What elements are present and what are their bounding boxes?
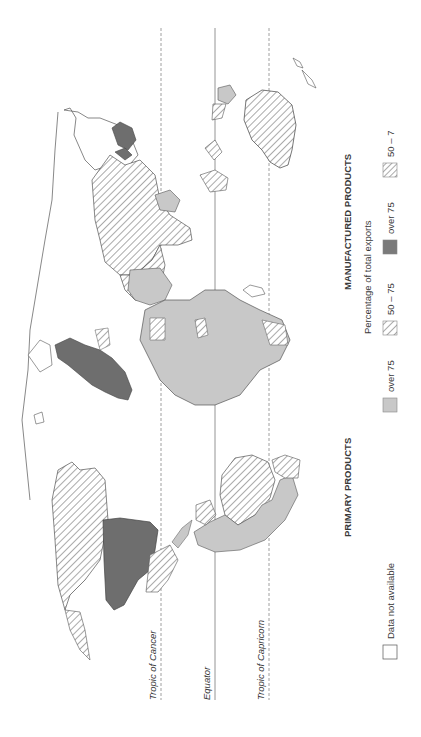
legend-label-manufactured-over-75: over 75: [385, 202, 396, 234]
world-map-figure: Tropic of Cancer Equator Tropic of Capri…: [0, 0, 421, 737]
legend-swatch-primary-50-75: [383, 321, 397, 335]
tropic-of-capricorn-label: Tropic of Capricorn: [255, 620, 266, 700]
region-nz-south: [302, 70, 316, 88]
legend-swatch-manufactured-50-75: [383, 163, 397, 177]
region-papua-hatched: [212, 104, 226, 120]
legend-label-manufactured-50-75: 50 – 7: [385, 131, 396, 157]
region-iceland: [34, 412, 44, 424]
legend-label-no-data: Data not available: [385, 563, 396, 639]
region-east-europe-hatch: [95, 328, 110, 350]
equator-label: Equator: [201, 666, 212, 700]
region-scandinavia: [28, 340, 52, 372]
legend-label-primary-over-75: over 75: [385, 360, 396, 392]
region-new-zealand: [293, 58, 303, 68]
region-argentina: [272, 455, 300, 478]
region-ussr: [92, 155, 192, 275]
map-svg: Tropic of Cancer Equator Tropic of Capri…: [0, 0, 421, 737]
legend-swatch-primary-over-75: [383, 398, 397, 412]
region-alaska: [65, 610, 90, 660]
region-indonesia: [200, 170, 228, 192]
legend-heading-manufactured: MANUFACTURED PRODUCTS: [342, 154, 353, 290]
region-africa: [140, 290, 290, 405]
legend-label-primary-50-75: 50 – 75: [385, 283, 396, 315]
region-africa-hatch-2: [150, 318, 165, 340]
legend-swatch-manufactured-over-75: [383, 240, 397, 254]
legend-swatch-no-data: [383, 645, 397, 659]
region-canada: [52, 462, 108, 610]
tropic-of-cancer-label: Tropic of Cancer: [147, 630, 158, 700]
region-philippines: [205, 140, 222, 160]
region-central-america: [172, 520, 192, 548]
legend-heading-primary: PRIMARY PRODUCTS: [342, 438, 353, 537]
region-papua-gray: [218, 85, 236, 104]
region-europe: [55, 338, 132, 400]
region-arctic-coast: [22, 112, 58, 500]
region-middle-east: [128, 268, 172, 305]
region-madagascar: [243, 285, 265, 297]
region-australia: [244, 90, 296, 168]
legend-subtitle: Percentage of total exports: [362, 220, 373, 334]
